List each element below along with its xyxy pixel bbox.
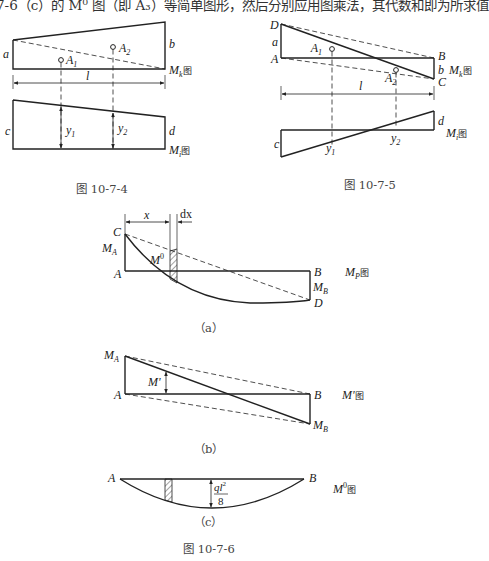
figure-caption: 图 10-7-6 bbox=[183, 542, 235, 556]
point-d: D bbox=[269, 18, 279, 32]
figure-caption: 图 10-7-5 bbox=[344, 178, 396, 192]
point-a: A bbox=[113, 388, 122, 402]
figure-10-7-6-c: A B ql2 8 M0图 （c） 图 10-7-6 bbox=[107, 471, 356, 556]
span-label: l bbox=[86, 69, 90, 83]
centroid-a2-marker bbox=[394, 68, 399, 73]
label-a1: A1 bbox=[310, 41, 322, 57]
mprime-diagram bbox=[125, 356, 310, 424]
centroid-a1-marker bbox=[330, 47, 335, 52]
label-y1: y1 bbox=[65, 123, 75, 139]
point-c: C bbox=[113, 225, 122, 239]
mb-label: MB bbox=[312, 418, 328, 434]
ma-label: MA bbox=[101, 241, 117, 257]
mi-diagram-label: Mi图 bbox=[445, 126, 467, 142]
figure-10-7-4: a b A1 A2 l Mk图 c d y1 y2 Mi图 图 10-7-4 bbox=[3, 22, 192, 196]
label-y2: y2 bbox=[117, 121, 127, 137]
label-c: c bbox=[5, 124, 11, 138]
label-d: d bbox=[438, 114, 445, 128]
point-a: A bbox=[113, 267, 122, 281]
label-y1: y1 bbox=[325, 141, 335, 157]
mi-diagram bbox=[13, 100, 165, 149]
m0-diagram-label: M0图 bbox=[332, 481, 356, 496]
label-d: d bbox=[169, 124, 176, 138]
ma-label: MA bbox=[103, 348, 119, 364]
span-label: l bbox=[359, 79, 363, 93]
centroid-a1-marker bbox=[59, 58, 64, 63]
sub-caption: （c） bbox=[194, 515, 222, 529]
mk-diagram-label: Mk图 bbox=[448, 63, 472, 79]
mb-label: MB bbox=[312, 280, 328, 296]
mk-diagram bbox=[281, 24, 434, 146]
figure-10-7-6-a: x dx C MA A M0 B MB D MP图 （a） bbox=[101, 207, 369, 335]
label-a2: A2 bbox=[118, 41, 130, 57]
label-a1: A1 bbox=[65, 53, 77, 69]
sub-caption: （a） bbox=[194, 321, 223, 335]
mk-diagram-label: Mk图 bbox=[168, 63, 192, 79]
point-b: B bbox=[314, 265, 322, 279]
dx-label: dx bbox=[180, 207, 192, 221]
m0-diagram bbox=[120, 479, 304, 508]
figure-caption: 图 10-7-4 bbox=[76, 182, 128, 196]
figure-10-7-6-b: MA A M' B MB M'图 （b） bbox=[103, 348, 364, 456]
point-d: D bbox=[313, 296, 323, 310]
sub-caption: （b） bbox=[194, 442, 223, 456]
point-b: B bbox=[438, 49, 446, 63]
label-b: b bbox=[169, 37, 175, 51]
svg-text:8: 8 bbox=[218, 495, 224, 507]
ql2-over-8-label: ql2 8 bbox=[214, 480, 228, 507]
point-b: B bbox=[314, 388, 322, 402]
mprime-diagram-label: M'图 bbox=[341, 388, 364, 402]
mi-diagram bbox=[281, 111, 434, 157]
mp-diagram-label: MP图 bbox=[344, 265, 369, 281]
mi-diagram-label: Mi图 bbox=[168, 143, 190, 159]
label-c: c bbox=[274, 137, 280, 151]
point-a: A bbox=[107, 471, 116, 485]
svg-text:ql2: ql2 bbox=[214, 480, 227, 493]
mk-diagram bbox=[13, 22, 165, 149]
label-y2: y2 bbox=[390, 131, 400, 147]
point-a: A bbox=[270, 52, 279, 66]
m0-label: M0 bbox=[149, 252, 164, 267]
centroid-a2-marker bbox=[111, 45, 116, 50]
point-c: C bbox=[438, 75, 447, 89]
point-b: B bbox=[309, 471, 317, 485]
label-a: a bbox=[272, 35, 278, 49]
label-a: a bbox=[3, 47, 9, 61]
mprime-label: M' bbox=[147, 375, 161, 389]
x-label: x bbox=[143, 208, 150, 222]
figure-10-7-5: D a A B b C A1 A2 l Mk图 c d y1 y2 Mi图 图 … bbox=[269, 18, 472, 192]
